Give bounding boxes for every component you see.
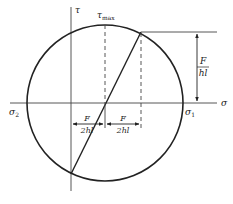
sigma-axis-label: σ: [221, 98, 228, 108]
svg-text:2hl: 2hl: [116, 126, 130, 135]
sigma-2-label: σ2: [9, 107, 19, 118]
svg-text:F: F: [199, 56, 207, 66]
tau-axis-label: τ: [75, 5, 81, 15]
left-dimension-label: F 2hl: [80, 114, 94, 135]
svg-text:hl: hl: [199, 68, 208, 78]
svg-text:2hl: 2hl: [80, 126, 94, 135]
sigma-1-label: σ1: [185, 107, 195, 118]
svg-text:F: F: [83, 114, 90, 123]
svg-text:F: F: [119, 114, 126, 123]
right-dimension-label: F 2hl: [116, 114, 130, 135]
vertical-dimension-label: F hl: [197, 56, 209, 78]
mohr-circle-diagram: τ τmax σ σ2 σ1 F hl F 2hl F 2hl: [0, 0, 233, 204]
tau-max-label: τmax: [97, 10, 115, 21]
